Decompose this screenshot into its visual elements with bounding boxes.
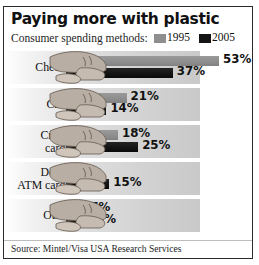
chart-row: Other7%9% [4,197,252,234]
source-divider [4,240,252,241]
bar-value-1995: 7% [90,202,110,212]
category-label: Cash [3,86,70,123]
bar-value-1995: 53% [223,54,251,64]
bar-value-2005: 14% [110,103,138,113]
legend-label-1995: 1995 [167,31,190,43]
bar-value-2005: 37% [177,66,205,76]
chart-legend: Consumer spending methods: 1995 2005 [11,31,248,46]
bar-value-2005: 9% [96,214,116,224]
bar-1995 [66,130,118,140]
chart-title: Paying more with plastic [11,10,220,28]
legend-swatch-2005 [199,34,211,43]
legend-label-2005: 2005 [212,31,235,43]
bar-group: 21%14% [66,86,252,123]
bar-value-1995: 18% [122,128,150,138]
legend-swatch-1995 [154,34,166,43]
chart-row: Debit/ATM cards1%15% [4,160,252,197]
bar-value-1995: 1% [73,165,93,175]
category-label: Creditcards [3,123,70,160]
bar-1995 [66,167,69,177]
chart-row: Cash21%14% [4,86,252,123]
chart-figure: Paying more with plastic Consumer spendi… [3,6,253,259]
chart-plot-area: Checks53%37%Cash21%14%Creditcards18%25%D… [4,49,252,234]
category-label: Debit/ATM cards [3,160,70,197]
category-label: Checks [3,49,70,86]
category-label: Other [3,197,70,234]
bar-value-1995: 21% [131,91,159,101]
category-label-line2: ATM cards [17,179,70,192]
bar-2005 [66,68,173,78]
bar-group: 1%15% [66,160,252,197]
bar-1995 [66,204,86,214]
bar-group: 7%9% [66,197,252,234]
bar-2005 [66,105,106,115]
legend-caption: Consumer spending methods: [11,32,148,44]
bar-2005 [66,216,92,226]
bar-group: 18%25% [66,123,252,160]
bar-value-2005: 25% [142,140,170,150]
bar-2005 [66,142,138,152]
chart-row: Creditcards18%25% [4,123,252,160]
category-label-line1: Checks [35,61,70,74]
bar-group: 53%37% [66,49,252,86]
bar-value-2005: 15% [113,177,141,187]
chart-source: Source: Mintel/Visa USA Research Service… [11,243,181,254]
chart-row: Checks53%37% [4,49,252,86]
bar-2005 [66,179,109,189]
